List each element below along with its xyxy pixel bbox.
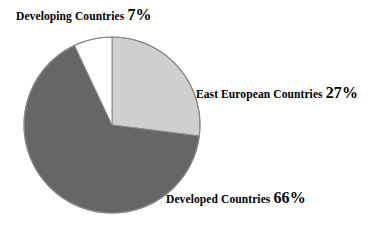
pie-label-developed-countries: Developed Countries66%: [166, 190, 306, 206]
pie-slice-east-european-countries[interactable]: [112, 37, 200, 136]
pie-label-east-european-countries-percent: 27%: [326, 84, 358, 101]
pie-label-developing-countries-percent: 7%: [127, 6, 151, 23]
pie-chart-figure: Developing Countries7% East European Cou…: [0, 0, 389, 227]
pie-label-developed-countries-text: Developed Countries: [166, 193, 270, 205]
pie-label-developing-countries-text: Developing Countries: [16, 10, 124, 22]
pie-label-developed-countries-percent: 66%: [273, 189, 305, 206]
pie-label-east-european-countries-text: East European Countries: [196, 88, 323, 100]
pie-label-developing-countries: Developing Countries7%: [16, 7, 152, 23]
pie-slices: [24, 37, 200, 213]
pie-label-east-european-countries: East European Countries27%: [196, 85, 358, 101]
